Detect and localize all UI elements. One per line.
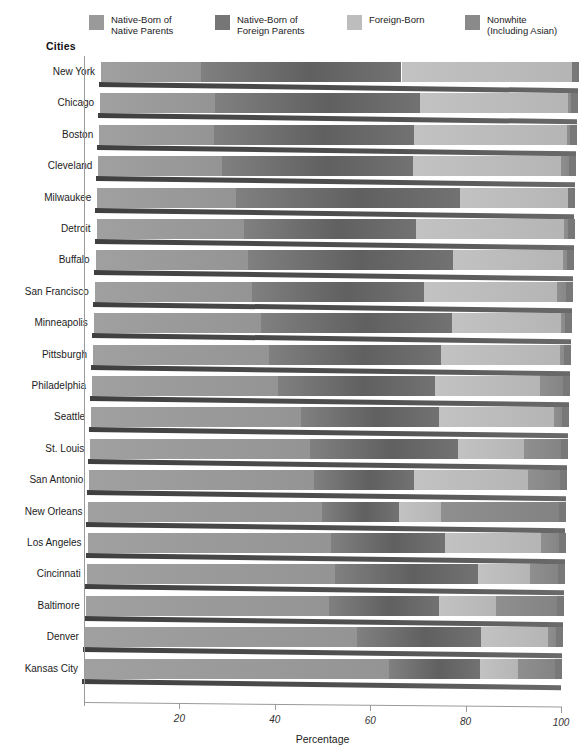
bar-end-cap <box>572 62 579 82</box>
bar-segment[interactable] <box>236 188 460 208</box>
bar-segment[interactable] <box>441 345 560 365</box>
stacked-bar[interactable] <box>99 125 576 151</box>
bar-segment[interactable] <box>95 282 252 302</box>
bar-segment[interactable] <box>445 533 540 553</box>
bar-segment[interactable] <box>94 313 261 333</box>
value-axis-tick-label: 100 <box>553 717 570 728</box>
stacked-bar[interactable] <box>88 502 565 528</box>
bar-segment[interactable] <box>314 470 414 490</box>
stacked-bar[interactable] <box>84 659 561 685</box>
stacked-bar[interactable] <box>98 156 575 182</box>
stacked-bar[interactable] <box>96 250 573 276</box>
bar-depth-shadow <box>90 396 569 407</box>
stacked-bar[interactable] <box>87 564 564 590</box>
bar-segment[interactable] <box>97 219 245 239</box>
bar-segment[interactable] <box>402 62 574 82</box>
bar-end-cap <box>563 376 570 396</box>
bar-segment[interactable] <box>215 93 420 113</box>
bar-segment[interactable] <box>460 188 570 208</box>
stacked-bar[interactable] <box>97 219 574 245</box>
bar-segment[interactable] <box>244 219 416 239</box>
bar-segment[interactable] <box>441 502 565 522</box>
bar-segment[interactable] <box>252 282 424 302</box>
bar-segment[interactable] <box>89 470 313 490</box>
bar-segment[interactable] <box>335 564 478 584</box>
bar-segment[interactable] <box>261 313 452 333</box>
chart-row: New York <box>0 62 582 88</box>
bar-segment[interactable] <box>453 250 563 270</box>
chart-row: St. Louis <box>0 439 582 465</box>
bar-segment[interactable] <box>458 439 525 459</box>
bar-end-cap <box>559 502 566 522</box>
bar-end-cap <box>568 188 575 208</box>
stacked-bar[interactable] <box>86 596 563 622</box>
bar-segment[interactable] <box>88 533 331 553</box>
bar-segment[interactable] <box>90 439 309 459</box>
bar-segment[interactable] <box>278 376 435 396</box>
stacked-bar[interactable] <box>97 188 574 214</box>
value-axis-tick <box>561 707 562 713</box>
bar-segment[interactable] <box>222 156 413 176</box>
value-axis-tick-label: 40 <box>269 714 280 725</box>
chart-row: Milwaukee <box>0 188 582 214</box>
bar-segment[interactable] <box>414 470 528 490</box>
bar-segment[interactable] <box>357 627 481 647</box>
bar-segment[interactable] <box>420 93 568 113</box>
bar-segment[interactable] <box>439 407 553 427</box>
bar-segment[interactable] <box>399 502 442 522</box>
bar-segment[interactable] <box>301 407 439 427</box>
bar-depth-shadow <box>86 522 565 533</box>
bar-segment[interactable] <box>93 345 269 365</box>
stacked-bar[interactable] <box>91 407 568 433</box>
bar-segment[interactable] <box>310 439 458 459</box>
bar-segment[interactable] <box>414 125 567 145</box>
bar-segment[interactable] <box>91 407 301 427</box>
bar-segment[interactable] <box>435 376 540 396</box>
bar-segment[interactable] <box>98 156 222 176</box>
stacked-bar[interactable] <box>101 62 578 88</box>
bar-segment[interactable] <box>269 345 441 365</box>
bar-segment[interactable] <box>331 533 445 553</box>
bar-segment[interactable] <box>322 502 398 522</box>
bar-segment[interactable] <box>101 62 201 82</box>
stacked-bar[interactable] <box>90 439 567 465</box>
bar-segment[interactable] <box>99 125 213 145</box>
bar-segment[interactable] <box>389 659 480 679</box>
bar-segment[interactable] <box>439 596 496 616</box>
chart-row: Minneapolis <box>0 313 582 339</box>
bar-segment[interactable] <box>92 376 278 396</box>
bar-segment[interactable] <box>424 282 558 302</box>
bar-segment[interactable] <box>329 596 439 616</box>
bar-segment[interactable] <box>416 219 564 239</box>
bar-segment[interactable] <box>86 596 329 616</box>
bar-segment[interactable] <box>84 659 389 679</box>
bar-segment[interactable] <box>478 564 530 584</box>
bar-segment[interactable] <box>480 659 518 679</box>
bar-segment[interactable] <box>85 627 357 647</box>
bar-depth-shadow <box>89 427 568 438</box>
bar-segment[interactable] <box>96 250 249 270</box>
value-axis-tick <box>370 705 371 711</box>
bar-segment[interactable] <box>97 188 235 208</box>
bar-segment[interactable] <box>100 93 214 113</box>
bar-segment[interactable] <box>201 62 401 82</box>
stacked-bar[interactable] <box>100 93 577 119</box>
stacked-bar[interactable] <box>94 313 571 339</box>
bar-segment[interactable] <box>88 502 322 522</box>
stacked-bar[interactable] <box>95 282 572 308</box>
bar-segment[interactable] <box>496 596 563 616</box>
category-label: Los Angeles <box>0 537 82 548</box>
bar-segment[interactable] <box>481 627 548 647</box>
stacked-bar[interactable] <box>92 376 569 402</box>
bar-segment[interactable] <box>452 313 562 333</box>
stacked-bar[interactable] <box>89 470 566 496</box>
stacked-bar[interactable] <box>85 627 562 653</box>
value-axis-tick-label: 60 <box>365 715 376 726</box>
bar-segment[interactable] <box>87 564 335 584</box>
bar-end-cap <box>564 345 571 365</box>
bar-segment[interactable] <box>413 156 561 176</box>
bar-segment[interactable] <box>214 125 414 145</box>
bar-segment[interactable] <box>248 250 453 270</box>
stacked-bar[interactable] <box>93 345 570 371</box>
stacked-bar[interactable] <box>88 533 565 559</box>
